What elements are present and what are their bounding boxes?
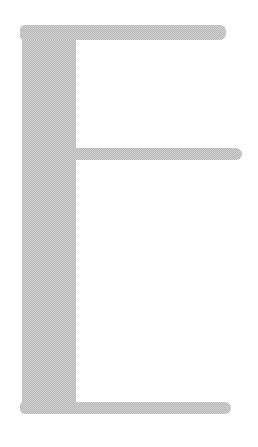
glyph-middle-bar — [76, 148, 242, 160]
glyph-stem — [22, 26, 76, 413]
glyph-bottom-bar — [20, 402, 231, 414]
glyph-top-bar — [20, 25, 226, 40]
letter-e-glyph: E — [0, 0, 258, 447]
